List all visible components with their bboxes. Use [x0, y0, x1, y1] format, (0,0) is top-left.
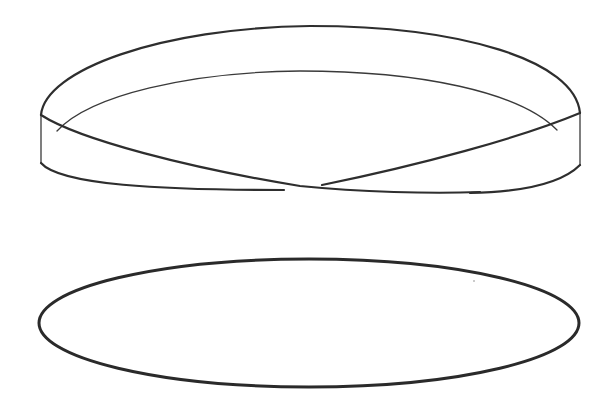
ellipse-outline: [39, 259, 579, 387]
band-front-upper-right-edge: [322, 113, 580, 185]
diagram-canvas: [0, 0, 613, 412]
twisted-band: [41, 26, 580, 193]
speck: [473, 280, 475, 282]
band-front-upper-left-edge: [41, 115, 480, 193]
band-inner-top-edge: [57, 71, 557, 131]
flat-ellipse: [39, 259, 579, 387]
band-front-lower-right-edge: [470, 165, 580, 193]
